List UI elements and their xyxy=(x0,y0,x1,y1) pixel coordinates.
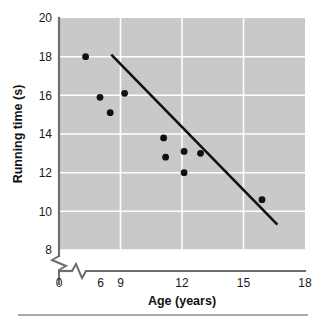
y-tick-label: 12 xyxy=(39,166,53,180)
x-tick-label: 9 xyxy=(117,276,124,290)
y-tick-label: 8 xyxy=(45,243,52,257)
data-point xyxy=(162,154,169,161)
y-tick-label: 18 xyxy=(39,50,53,64)
y-tick-label: 14 xyxy=(39,127,53,141)
x-tick-label: 6 xyxy=(97,276,104,290)
scatter-plot-figure: 20 18 16 14 12 10 8 0 6 9 12 15 18 Age (… xyxy=(0,0,326,320)
data-point xyxy=(259,196,266,203)
data-point xyxy=(97,94,104,101)
x-tick-label: 12 xyxy=(175,276,189,290)
y-tick-labels: 20 18 16 14 12 10 8 xyxy=(39,11,53,257)
y-tick-label: 16 xyxy=(39,89,53,103)
x-axis-title: Age (years) xyxy=(148,294,216,308)
y-axis-title: Running time (s) xyxy=(11,85,25,184)
y-tick-label: 10 xyxy=(39,205,53,219)
x-tick-label: 18 xyxy=(298,276,312,290)
data-point xyxy=(107,109,114,116)
data-point xyxy=(181,148,188,155)
data-point xyxy=(82,53,89,60)
data-point xyxy=(160,135,167,142)
x-tick-label: 15 xyxy=(237,276,251,290)
chart-canvas: 20 18 16 14 12 10 8 0 6 9 12 15 18 Age (… xyxy=(0,0,326,320)
x-axis-break-icon xyxy=(72,264,86,278)
data-point xyxy=(181,169,188,176)
data-point xyxy=(121,90,128,97)
x-tick-label: 0 xyxy=(56,276,63,290)
x-tick-labels: 0 6 9 12 15 18 xyxy=(56,276,312,290)
y-tick-label: 20 xyxy=(39,11,53,25)
data-point xyxy=(197,150,204,157)
